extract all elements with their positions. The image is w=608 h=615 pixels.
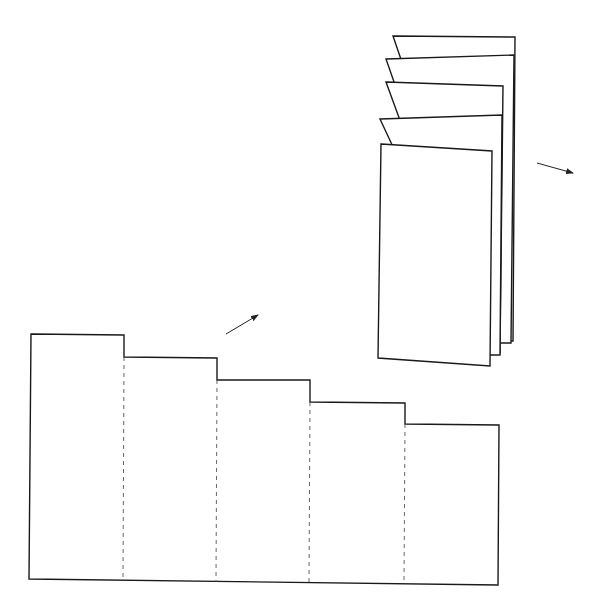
accordion-fold-diagram xyxy=(0,0,608,615)
folded-booklet xyxy=(378,36,515,366)
booklet-panel-5 xyxy=(378,144,492,366)
strip-outline xyxy=(29,334,499,585)
fold-direction-arrow-icon xyxy=(226,315,258,334)
flat-stepped-strip xyxy=(29,334,499,585)
output-direction-arrow-icon xyxy=(537,163,573,173)
